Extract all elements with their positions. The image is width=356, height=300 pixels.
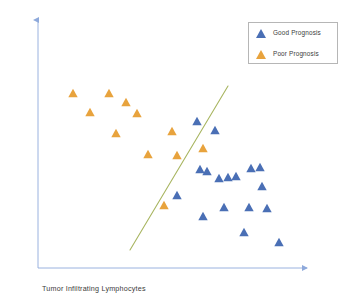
data-point-marker — [239, 228, 248, 237]
triangle-marker-icon — [256, 29, 266, 38]
series-good-prognosis-points — [172, 117, 283, 247]
data-point-marker — [274, 238, 283, 247]
data-point-marker — [68, 89, 77, 98]
data-point-marker — [257, 182, 266, 191]
data-point-marker — [202, 167, 211, 176]
decision-boundary — [130, 86, 228, 250]
scatter-plot-figure: Good Prognosis Poor Prognosis Tumor Infi… — [0, 0, 356, 300]
legend-item-poor-prognosis: Poor Prognosis — [249, 44, 337, 65]
data-point-marker — [111, 129, 120, 138]
data-point-marker — [231, 172, 240, 181]
data-point-marker — [143, 150, 152, 159]
legend-item-good-prognosis: Good Prognosis — [249, 23, 337, 44]
legend-label-good-prognosis: Good Prognosis — [273, 30, 321, 36]
data-point-marker — [85, 108, 94, 117]
data-point-marker — [223, 173, 232, 182]
x-axis-label: Tumor Infiltrating Lymphocytes — [42, 284, 146, 293]
data-point-marker — [198, 144, 207, 153]
decision-boundary-line — [130, 86, 228, 250]
data-point-marker — [255, 163, 264, 172]
data-point-marker — [104, 89, 113, 98]
data-point-marker — [210, 126, 219, 135]
data-point-marker — [159, 201, 168, 210]
chart-legend: Good Prognosis Poor Prognosis — [248, 22, 338, 64]
data-point-marker — [172, 151, 181, 160]
data-point-marker — [198, 212, 207, 221]
data-point-marker — [132, 109, 141, 118]
data-point-marker — [244, 203, 253, 212]
data-point-marker — [195, 165, 204, 174]
series-poor-prognosis-points — [68, 89, 207, 210]
data-point-marker — [246, 164, 255, 173]
legend-label-poor-prognosis: Poor Prognosis — [273, 51, 319, 57]
data-point-marker — [121, 98, 130, 107]
data-point-marker — [262, 204, 271, 213]
data-point-marker — [167, 127, 176, 136]
triangle-marker-icon — [256, 50, 266, 59]
data-point-marker — [192, 117, 201, 126]
data-point-marker — [172, 191, 181, 200]
data-point-marker — [219, 203, 228, 212]
data-point-marker — [214, 174, 223, 183]
